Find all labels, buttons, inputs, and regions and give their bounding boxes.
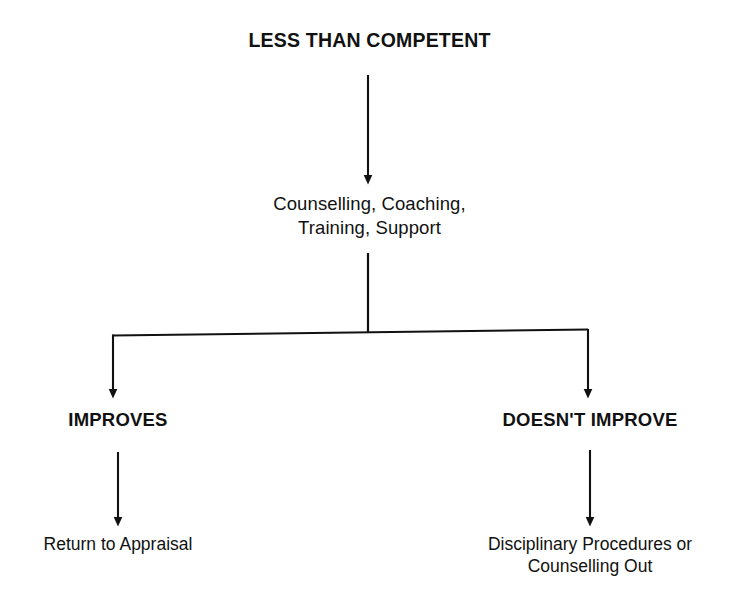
node-intervention-line2: Training, Support: [0, 216, 739, 240]
node-intervention: Counselling, Coaching, Training, Support: [0, 192, 739, 239]
node-doesnt-improve-label: DOESN'T IMPROVE: [460, 408, 720, 432]
node-disciplinary-line2: Counselling Out: [455, 555, 725, 577]
flowchart-canvas: LESS THAN COMPETENT Counselling, Coachin…: [0, 0, 739, 606]
node-less-than-competent: LESS THAN COMPETENT: [0, 28, 739, 53]
flowchart-connectors: [0, 0, 739, 606]
node-improves: IMPROVES: [0, 408, 236, 432]
node-intervention-line1: Counselling, Coaching,: [0, 192, 739, 216]
node-doesnt-improve: DOESN'T IMPROVE: [460, 408, 720, 432]
node-return-to-appraisal: Return to Appraisal: [0, 533, 236, 556]
node-root-label: LESS THAN COMPETENT: [0, 28, 739, 53]
node-disciplinary-line1: Disciplinary Procedures or: [455, 533, 725, 555]
connector-split-bar: [113, 330, 589, 336]
node-return-to-appraisal-label: Return to Appraisal: [0, 533, 236, 556]
node-disciplinary-procedures: Disciplinary Procedures or Counselling O…: [455, 533, 725, 577]
node-improves-label: IMPROVES: [0, 408, 236, 432]
